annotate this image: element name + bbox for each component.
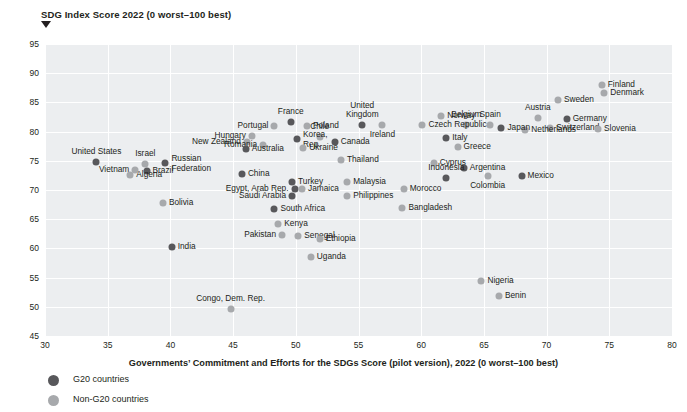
data-point-label: Philippines [353, 192, 393, 201]
data-point-label: Nigeria [487, 276, 513, 285]
data-point[interactable] [289, 178, 296, 185]
data-point-label: Jamaica [308, 184, 339, 193]
data-point[interactable] [294, 136, 301, 143]
data-point-label: Ukraine [309, 143, 338, 152]
data-point[interactable] [554, 97, 561, 104]
data-point[interactable] [598, 81, 605, 88]
data-point[interactable] [454, 143, 461, 150]
data-point[interactable] [399, 204, 406, 211]
gridline-vertical [170, 44, 171, 336]
data-point-label: Slovenia [604, 125, 636, 134]
data-point-label: UnitedKingdom [346, 100, 379, 119]
legend-dot-icon [48, 375, 59, 386]
gridline-vertical [672, 44, 673, 336]
data-point[interactable] [344, 179, 351, 186]
data-point[interactable] [443, 175, 450, 182]
data-point[interactable] [400, 185, 407, 192]
data-point-label: Saudi Arabia [239, 192, 286, 201]
data-point[interactable] [168, 243, 175, 250]
data-point[interactable] [478, 278, 485, 285]
data-point[interactable] [300, 144, 307, 151]
data-point[interactable] [271, 205, 278, 212]
y-tick-label: 85 [17, 97, 39, 107]
gridline-horizontal [45, 336, 672, 337]
gridline-vertical [45, 44, 46, 336]
data-point[interactable] [242, 145, 249, 152]
data-point-label: China [248, 170, 270, 179]
scatter-chart: SDG Index Score 2022 (0 worst–100 best) … [0, 0, 687, 412]
data-point[interactable] [498, 124, 505, 131]
plot-area: FinlandDenmarkSwedenAustriaGermanySwitze… [45, 44, 672, 336]
data-point[interactable] [443, 135, 450, 142]
data-point-label: Kenya [284, 219, 308, 228]
x-tick-label: 30 [30, 340, 60, 350]
data-point[interactable] [419, 122, 426, 129]
data-point[interactable] [275, 220, 282, 227]
data-point[interactable] [289, 193, 296, 200]
data-point-label: Bangladesh [408, 203, 452, 212]
data-point-label: Morocco [410, 184, 442, 193]
data-point[interactable] [127, 172, 134, 179]
data-point[interactable] [487, 122, 494, 129]
legend-dot-icon [48, 395, 59, 406]
y-tick-label: 65 [17, 214, 39, 224]
data-point[interactable] [601, 90, 608, 97]
x-tick-label: 45 [218, 340, 248, 350]
data-point-label: Netherlands [531, 126, 576, 135]
data-point[interactable] [227, 305, 234, 312]
y-axis-caret-icon [41, 21, 51, 28]
y-axis-title: SDG Index Score 2022 (0 worst–100 best) [41, 9, 231, 20]
data-point[interactable] [518, 172, 525, 179]
data-point-label: Malaysia [353, 178, 386, 187]
y-tick-label: 80 [17, 127, 39, 137]
y-tick-label: 60 [17, 243, 39, 253]
data-point-label: South Africa [280, 204, 325, 213]
data-point[interactable] [484, 172, 491, 179]
data-point[interactable] [299, 185, 306, 192]
data-point[interactable] [337, 156, 344, 163]
data-point[interactable] [359, 121, 366, 128]
legend-label: G20 countries [73, 374, 129, 384]
x-tick-label: 80 [657, 340, 687, 350]
x-axis-title: Governments’ Commitment and Efforts for … [0, 358, 687, 368]
data-point[interactable] [159, 200, 166, 207]
data-point-label: Colombia [470, 181, 505, 190]
x-tick-label: 70 [532, 340, 562, 350]
gridline-vertical [547, 44, 548, 336]
data-point-label: Ireland [370, 130, 395, 139]
y-tick-label: 50 [17, 302, 39, 312]
data-point[interactable] [316, 236, 323, 243]
data-point-label: Bolivia [169, 199, 193, 208]
data-point[interactable] [495, 292, 502, 299]
data-point-label: Indonesia [428, 164, 464, 173]
y-tick-label: 55 [17, 273, 39, 283]
data-point[interactable] [279, 231, 286, 238]
data-point-label: Greece [464, 142, 491, 151]
data-point[interactable] [238, 171, 245, 178]
data-point[interactable] [287, 119, 294, 126]
data-point[interactable] [379, 121, 386, 128]
data-point[interactable] [307, 253, 314, 260]
data-point-label: Denmark [610, 88, 644, 97]
x-tick-label: 55 [344, 340, 374, 350]
data-point[interactable] [291, 185, 298, 192]
data-point-label: Czech Republic [428, 120, 486, 129]
x-tick-label: 65 [469, 340, 499, 350]
x-tick-label: 60 [406, 340, 436, 350]
data-point[interactable] [595, 126, 602, 133]
data-point[interactable] [271, 123, 278, 130]
data-point-label: Ethiopia [326, 234, 356, 243]
data-point-label: Japan [507, 123, 530, 132]
data-point-label: RussianFederation [171, 154, 211, 173]
data-point-label: United States [72, 147, 122, 156]
data-point-label: France [278, 108, 304, 117]
x-tick-label: 75 [594, 340, 624, 350]
data-point[interactable] [534, 114, 541, 121]
gridline-vertical [108, 44, 109, 336]
y-tick-label: 95 [17, 39, 39, 49]
data-point[interactable] [295, 233, 302, 240]
data-point-label: Sweden [564, 95, 594, 104]
x-tick-label: 35 [93, 340, 123, 350]
data-point-label: Uganda [317, 252, 346, 261]
data-point[interactable] [344, 193, 351, 200]
